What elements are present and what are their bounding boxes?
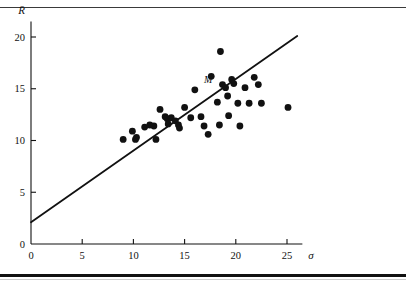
y-axis-tick-label: 0 xyxy=(20,239,25,250)
y-axis-tick-label: 5 xyxy=(20,187,25,198)
data-point xyxy=(242,84,249,91)
data-point xyxy=(191,86,198,93)
x-axis-tick-label: 25 xyxy=(282,250,293,261)
data-point xyxy=(285,104,292,111)
y-axis-tick-label: 15 xyxy=(15,83,26,94)
x-axis-tick-label: 20 xyxy=(231,250,242,261)
data-point xyxy=(230,80,237,87)
data-point xyxy=(222,84,229,91)
data-point xyxy=(251,74,258,81)
x-axis-tick-label: 15 xyxy=(179,250,190,261)
data-point xyxy=(205,131,212,138)
data-point xyxy=(225,112,232,119)
figure-panel: 051015200510152025σR̄M xyxy=(0,0,406,288)
data-point xyxy=(214,99,221,106)
y-axis-title: R̄ xyxy=(17,4,25,16)
y-axis-tick-label: 20 xyxy=(15,32,26,43)
data-point xyxy=(236,123,243,130)
data-point xyxy=(216,122,223,129)
point-annotation-label: M xyxy=(203,74,213,85)
data-point xyxy=(129,128,136,135)
x-axis-tick-label: 10 xyxy=(128,250,139,261)
regression-line xyxy=(31,36,297,222)
data-point xyxy=(176,125,183,132)
x-axis-tick-label: 0 xyxy=(28,250,33,261)
bottom-divider-rule-hairline xyxy=(0,279,406,280)
y-axis-tick-label: 10 xyxy=(15,135,26,146)
x-axis-title: σ xyxy=(308,249,314,261)
bottom-divider-rule xyxy=(0,274,406,277)
x-axis-tick-label: 5 xyxy=(80,250,85,261)
data-point xyxy=(120,136,127,143)
data-point xyxy=(187,114,194,121)
data-point xyxy=(258,100,265,107)
scatter-plot: 051015200510152025σR̄M xyxy=(0,0,406,288)
data-point xyxy=(133,134,140,141)
data-point xyxy=(165,121,172,128)
data-point xyxy=(181,104,188,111)
data-point xyxy=(255,81,262,88)
data-point xyxy=(157,106,164,113)
data-point xyxy=(246,100,253,107)
data-point xyxy=(224,93,231,100)
data-point xyxy=(234,100,241,107)
data-point xyxy=(153,136,160,143)
data-point xyxy=(150,123,157,130)
data-point xyxy=(201,123,208,130)
data-point xyxy=(217,48,224,55)
data-point xyxy=(198,113,205,120)
